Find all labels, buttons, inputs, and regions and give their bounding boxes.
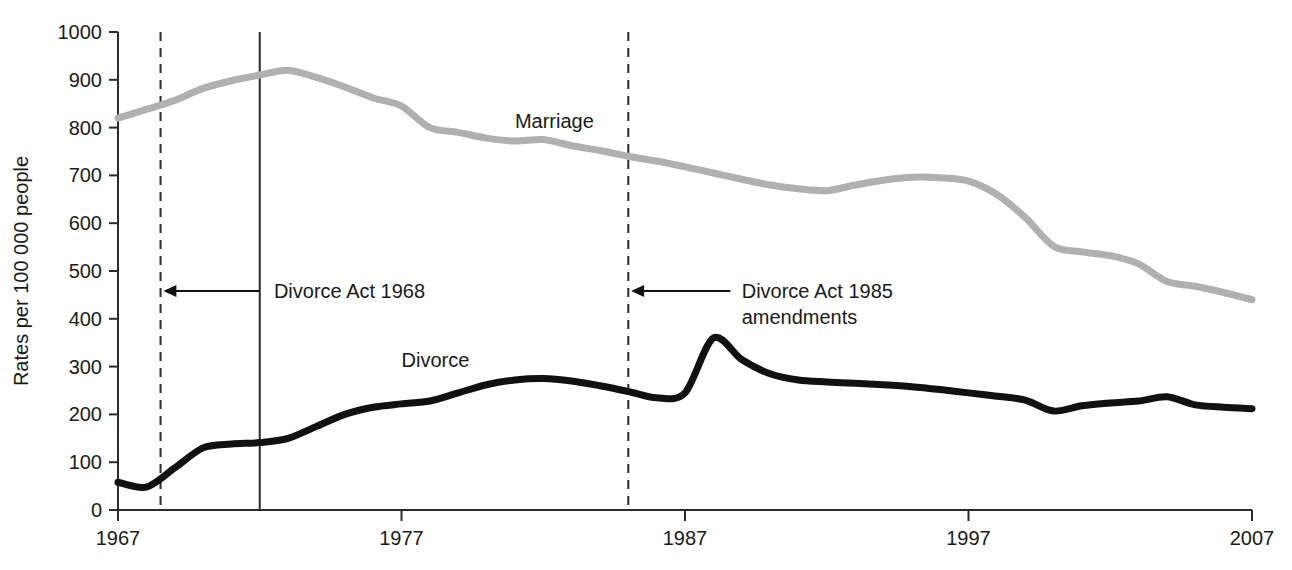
y-tick-label: 200 bbox=[69, 403, 102, 425]
y-tick-label: 900 bbox=[69, 69, 102, 91]
series-label-divorce: Divorce bbox=[402, 349, 470, 371]
series-label-marriage: Marriage bbox=[515, 110, 594, 132]
y-tick-label: 300 bbox=[69, 356, 102, 378]
chart-container: MarriageDivorce Divorce Act 1968Divorce … bbox=[0, 0, 1292, 570]
y-tick-label: 100 bbox=[69, 451, 102, 473]
x-tick-label: 1977 bbox=[379, 527, 424, 549]
y-tick-label: 1000 bbox=[58, 21, 103, 43]
y-tick-label: 800 bbox=[69, 117, 102, 139]
y-tick-label: 0 bbox=[91, 499, 102, 521]
y-tick-label: 600 bbox=[69, 212, 102, 234]
y-tick-label: 500 bbox=[69, 260, 102, 282]
x-tick-label: 1967 bbox=[96, 527, 141, 549]
annotation-text: amendments bbox=[742, 306, 858, 328]
y-tick-label: 400 bbox=[69, 308, 102, 330]
annotation-text: Divorce Act 1968 bbox=[274, 280, 425, 302]
marriage-divorce-rate-line-chart: MarriageDivorce Divorce Act 1968Divorce … bbox=[0, 0, 1292, 570]
x-tick-label: 1987 bbox=[663, 527, 708, 549]
x-tick-label: 1997 bbox=[946, 527, 991, 549]
y-axis-title: Rates per 100 000 people bbox=[10, 156, 32, 386]
y-tick-label: 700 bbox=[69, 164, 102, 186]
plot-background bbox=[0, 0, 1292, 570]
x-tick-label: 2007 bbox=[1230, 527, 1275, 549]
annotation-text: Divorce Act 1985 bbox=[742, 280, 893, 302]
